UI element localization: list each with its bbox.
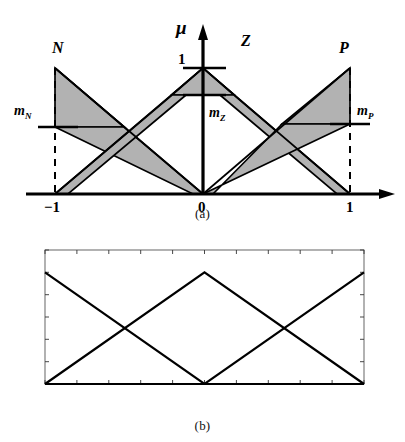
axis-y-arrowhead xyxy=(198,24,208,40)
label-m-p: mP xyxy=(357,104,373,121)
panel-a-svg xyxy=(0,0,405,228)
label-m-n-text: m xyxy=(14,103,25,118)
plot-frame xyxy=(45,250,364,384)
axis-x-arrowhead xyxy=(379,189,395,199)
label-mu-one: 1 xyxy=(178,52,186,67)
label-m-z-sub: Z xyxy=(220,113,226,123)
figure-container: N Z P μ 1 mN mZ mP −1 0 1 (a) xyxy=(0,0,405,442)
label-m-z: mZ xyxy=(209,106,225,123)
caption-panel-a: (a) xyxy=(0,206,405,222)
caption-panel-b: (b) xyxy=(0,418,405,434)
label-set-n: N xyxy=(52,40,64,56)
panel-b-plot: 1.2 1 0.8 0.6 0.4 0.2 0 -1 -0.8 -0.6 -0.… xyxy=(0,228,405,442)
label-set-z: Z xyxy=(241,33,251,49)
label-axis-mu: μ xyxy=(176,18,187,37)
label-m-p-text: m xyxy=(357,103,368,118)
panel-a-diagram: N Z P μ 1 mN mZ mP −1 0 1 xyxy=(0,0,405,228)
label-set-p: P xyxy=(339,40,349,56)
label-m-n-sub: N xyxy=(25,111,32,121)
label-m-n: mN xyxy=(14,104,31,121)
panel-b-svg xyxy=(0,228,405,442)
label-m-p-sub: P xyxy=(368,111,374,121)
label-m-z-text: m xyxy=(209,105,220,120)
